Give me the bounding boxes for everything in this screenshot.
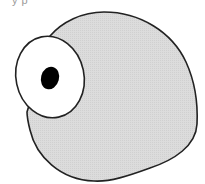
blob-creature-illustration	[0, 0, 205, 184]
